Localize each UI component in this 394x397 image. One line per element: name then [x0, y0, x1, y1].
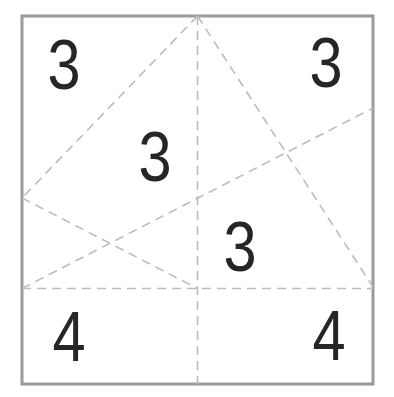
region-label-top-right: 3: [309, 23, 342, 102]
region-label-mid-right: 3: [223, 207, 256, 286]
puzzle-page: 333344: [0, 0, 394, 397]
region-label-center: 3: [138, 117, 171, 196]
puzzle-diagram: 333344: [0, 0, 394, 397]
region-label-bottom-right: 4: [312, 296, 345, 375]
region-label-bottom-left: 4: [52, 297, 85, 376]
region-label-top-left: 3: [47, 25, 80, 104]
